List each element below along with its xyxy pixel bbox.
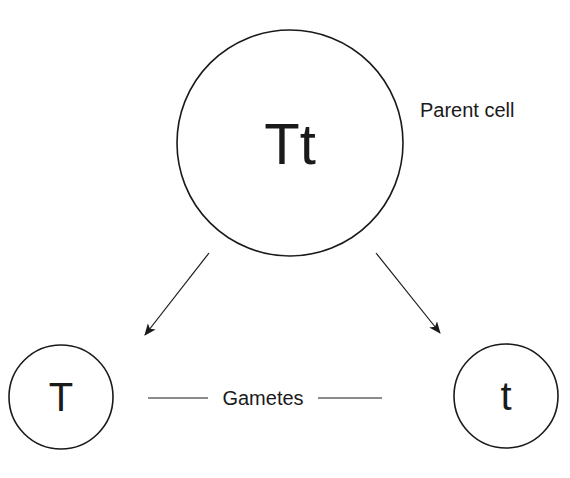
gametes-label: Gametes xyxy=(222,387,303,410)
parent-cell-label: Parent cell xyxy=(420,99,515,122)
arrow-left xyxy=(145,253,209,335)
gamete-right-allele: t xyxy=(500,374,511,419)
gamete-left-allele: T xyxy=(49,375,73,420)
parent-genotype: Tt xyxy=(264,110,316,177)
arrow-right xyxy=(376,253,440,333)
